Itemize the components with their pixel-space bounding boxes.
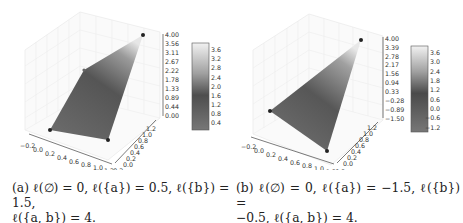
surface-plot-a: 4.00 3.56 3.11 2.67 2.22 1.78 1.33 0.89 …: [0, 0, 230, 170]
svg-text:0.0: 0.0: [123, 161, 133, 168]
svg-text:0.89: 0.89: [165, 94, 179, 101]
svg-text:1.0: 1.0: [314, 165, 324, 170]
svg-text:1.0: 1.0: [142, 131, 152, 138]
svg-text:0.6: 0.6: [134, 143, 144, 150]
caption-a: (a) ℓ(∅) = 0, ℓ({a}) = 0.5, ℓ({b}) = 1.5…: [12, 181, 234, 223]
svg-text:0.2: 0.2: [347, 154, 357, 161]
svg-text:1.33: 1.33: [165, 85, 179, 92]
svg-text:2.8: 2.8: [211, 64, 221, 71]
caption-b-line1: (b) ℓ(∅) = 0, ℓ({a}) = −1.5, ℓ({b}) =: [236, 181, 460, 211]
svg-text:2.67: 2.67: [165, 58, 179, 65]
plot-panel-a: 4.00 3.56 3.11 2.67 2.22 1.78 1.33 0.89 …: [0, 0, 230, 170]
svg-text:0.8: 0.8: [359, 136, 369, 143]
svg-text:3.39: 3.39: [385, 44, 399, 51]
svg-text:1.2: 1.2: [146, 125, 156, 132]
svg-text:−0.89: −0.89: [385, 106, 404, 113]
svg-text:0.4: 0.4: [351, 148, 361, 155]
svg-text:−0.6: −0.6: [425, 114, 440, 121]
svg-text:1.0: 1.0: [363, 130, 373, 137]
svg-text:1.6: 1.6: [211, 92, 221, 99]
surface-plot-b: 4.00 3.39 2.78 2.17 1.56 0.94 0.33 −0.28…: [231, 0, 463, 170]
svg-text:1.0: 1.0: [93, 164, 103, 170]
svg-text:2.0: 2.0: [211, 83, 221, 90]
svg-text:2.22: 2.22: [165, 67, 179, 74]
svg-text:3.6: 3.6: [430, 49, 440, 56]
svg-text:0.6: 0.6: [290, 159, 300, 166]
svg-text:0.8: 0.8: [138, 137, 148, 144]
svg-text:0.44: 0.44: [165, 103, 179, 110]
svg-text:0.8: 0.8: [81, 161, 91, 168]
caption-a-line2: ℓ({a, b}) = 4.: [12, 211, 234, 223]
svg-text:0.0: 0.0: [254, 147, 264, 154]
svg-text:3.2: 3.2: [211, 55, 221, 62]
svg-text:−1.50: −1.50: [385, 115, 404, 122]
svg-text:0.6: 0.6: [430, 96, 440, 103]
svg-text:−1.2: −1.2: [425, 124, 440, 131]
svg-text:1.2: 1.2: [211, 101, 221, 108]
svg-text:2.78: 2.78: [385, 53, 399, 60]
svg-text:0.6: 0.6: [69, 158, 79, 165]
svg-text:1.2: 1.2: [430, 86, 440, 93]
svg-text:2.17: 2.17: [385, 61, 399, 68]
caption-b: (b) ℓ(∅) = 0, ℓ({a}) = −1.5, ℓ({b}) = −0…: [236, 181, 460, 223]
svg-text:0.6: 0.6: [355, 142, 365, 149]
svg-text:1.8: 1.8: [430, 77, 440, 84]
plot-panel-b: 4.00 3.39 2.78 2.17 1.56 0.94 0.33 −0.28…: [231, 0, 463, 170]
svg-text:0.2: 0.2: [126, 155, 136, 162]
svg-text:−0.2: −0.2: [108, 167, 123, 170]
svg-text:3.0: 3.0: [430, 58, 440, 65]
caption-a-line1: (a) ℓ(∅) = 0, ℓ({a}) = 0.5, ℓ({b}) = 1.5…: [12, 181, 234, 211]
svg-text:3.6: 3.6: [211, 46, 221, 53]
z-axis-ticks-a: 4.00 3.56 3.11 2.67 2.22 1.78 1.33 0.89 …: [165, 31, 179, 119]
svg-text:1.56: 1.56: [385, 70, 399, 77]
svg-text:−0.2: −0.2: [330, 168, 345, 170]
z-axis-ticks-b: 4.00 3.39 2.78 2.17 1.56 0.94 0.33 −0.28…: [385, 35, 404, 122]
svg-text:0.8: 0.8: [211, 110, 221, 117]
svg-text:0.0: 0.0: [430, 105, 440, 112]
svg-text:1.78: 1.78: [165, 76, 179, 83]
svg-text:0.0: 0.0: [33, 146, 43, 153]
svg-text:−0.28: −0.28: [385, 97, 404, 104]
colorbar-a: [192, 43, 209, 130]
svg-text:0.4: 0.4: [211, 119, 221, 126]
svg-text:4.00: 4.00: [385, 35, 399, 42]
svg-text:0.4: 0.4: [130, 149, 140, 156]
svg-text:3.11: 3.11: [165, 49, 179, 56]
svg-text:0.2: 0.2: [45, 150, 55, 157]
svg-text:0.4: 0.4: [57, 154, 67, 161]
caption-b-line2: −0.5, ℓ({a, b}) = 4.: [236, 211, 460, 223]
svg-text:3.56: 3.56: [165, 40, 179, 47]
svg-text:1.2: 1.2: [367, 124, 377, 131]
svg-text:2.4: 2.4: [211, 74, 221, 81]
svg-text:4.00: 4.00: [165, 31, 179, 38]
svg-text:0.4: 0.4: [278, 155, 288, 162]
svg-text:2.4: 2.4: [430, 68, 440, 75]
svg-text:0.00: 0.00: [165, 112, 179, 119]
svg-text:0.2: 0.2: [266, 151, 276, 158]
svg-text:0.8: 0.8: [302, 162, 312, 169]
svg-text:0.94: 0.94: [385, 79, 399, 86]
colorbar-ticks-a: 3.6 3.2 2.8 2.4 2.0 1.6 1.2 0.8 0.4: [211, 46, 221, 126]
svg-text:0.33: 0.33: [385, 88, 399, 95]
svg-text:0.0: 0.0: [343, 160, 353, 167]
